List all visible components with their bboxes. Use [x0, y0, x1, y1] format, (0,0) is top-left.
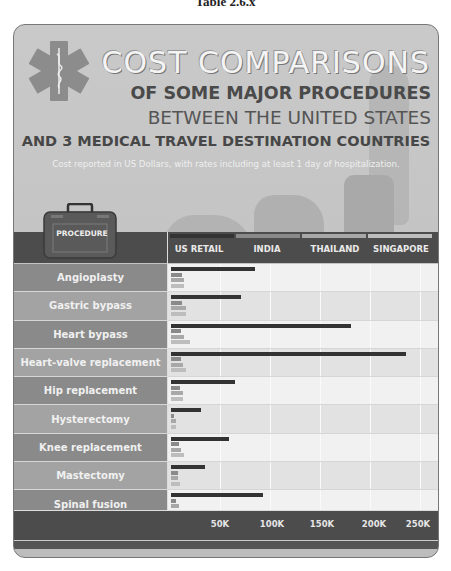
bar-plot-area: [168, 292, 438, 319]
bar-singapore: [171, 312, 186, 316]
table-row: Hip replacement: [14, 377, 438, 405]
bar-plot-area: [168, 405, 438, 432]
gridline: [370, 405, 371, 432]
gridline: [270, 292, 271, 319]
procedure-label: Gastric bypass: [14, 292, 167, 319]
gridline: [370, 292, 371, 319]
x-tick: 200K: [356, 519, 392, 529]
bar-singapore: [171, 397, 183, 401]
table-row: Angioplasty: [14, 264, 438, 292]
legend-swatch-us: [170, 234, 234, 238]
gridline: [420, 321, 421, 348]
procedure-label: Heart bypass: [14, 321, 167, 348]
bar-us-retail: [171, 267, 255, 271]
bar-thailand: [171, 306, 186, 310]
bar-us-retail: [171, 324, 351, 328]
gridline: [270, 377, 271, 404]
procedure-label: Hysterectomy: [14, 405, 167, 432]
gridline: [320, 462, 321, 489]
bar-india: [171, 357, 181, 361]
bar-thailand: [171, 335, 184, 339]
procedure-label: Knee replacement: [14, 434, 167, 461]
gridline: [220, 405, 221, 432]
gridline: [370, 377, 371, 404]
legend-swatch-singapore: [368, 234, 432, 238]
bar-plot-area: [168, 377, 438, 404]
gridline: [370, 264, 371, 291]
bar-us-retail: [171, 352, 406, 356]
legend-label-india: INDIA: [236, 244, 298, 254]
bar-india: [171, 301, 182, 305]
gridline: [320, 264, 321, 291]
gridline: [320, 377, 321, 404]
gridline: [320, 292, 321, 319]
bar-us-retail: [171, 295, 241, 299]
gridline: [320, 405, 321, 432]
bar-thailand: [171, 476, 178, 480]
table-row: Gastric bypass: [14, 292, 438, 320]
gridline: [420, 405, 421, 432]
gridline: [370, 462, 371, 489]
bar-india: [171, 386, 180, 390]
bar-thailand: [171, 419, 176, 423]
table-row: Hysterectomy: [14, 405, 438, 433]
bar-thailand: [171, 391, 183, 395]
column-divider: [167, 232, 168, 515]
gridline: [420, 264, 421, 291]
bar-us-retail: [171, 493, 263, 497]
bar-singapore: [171, 453, 184, 457]
gridline: [270, 462, 271, 489]
subtitle: Cost reported in US Dollars, with rates …: [20, 159, 432, 169]
gridline: [270, 264, 271, 291]
bar-plot-area: [168, 462, 438, 489]
x-tick: 250K: [400, 519, 436, 529]
gridline: [420, 349, 421, 376]
bar-us-retail: [171, 437, 229, 441]
table-row: Mastectomy: [14, 462, 438, 490]
title-line-1: COST COMPARISONS: [100, 45, 430, 80]
bar-india: [171, 471, 178, 475]
bar-singapore: [171, 482, 180, 486]
bar-us-retail: [171, 408, 201, 412]
gridline: [270, 405, 271, 432]
bar-india: [171, 499, 176, 503]
legend-swatch-india: [236, 234, 300, 238]
footer-band: [14, 540, 438, 549]
gridline: [370, 434, 371, 461]
gridline: [220, 462, 221, 489]
star-of-life-icon: [28, 40, 90, 102]
bar-plot-area: [168, 321, 438, 348]
bar-singapore: [171, 368, 186, 372]
bar-thailand: [171, 448, 181, 452]
legend-label-us: US RETAIL: [168, 244, 230, 254]
legend-label-singapore: SINGAPORE: [370, 244, 432, 254]
bar-thailand: [171, 278, 184, 282]
x-tick: 100K: [254, 519, 290, 529]
chart-rows: AngioplastyGastric bypassHeart bypassHea…: [14, 264, 438, 519]
table-row: Heart bypass: [14, 321, 438, 349]
bar-plot-area: [168, 264, 438, 291]
bar-us-retail: [171, 380, 235, 384]
legend-swatch-thailand: [302, 234, 366, 238]
gridline: [320, 434, 321, 461]
procedure-label: Mastectomy: [14, 462, 167, 489]
bar-us-retail: [171, 465, 205, 469]
bar-singapore: [171, 340, 190, 344]
table-row: Heart-valve replacement: [14, 349, 438, 377]
gridline: [270, 434, 271, 461]
table-caption: Table 2.6.x: [0, 0, 451, 10]
procedure-label: Angioplasty: [14, 264, 167, 291]
gridline: [420, 434, 421, 461]
procedure-label: Heart-valve replacement: [14, 349, 167, 376]
gridline: [370, 321, 371, 348]
gridline: [420, 462, 421, 489]
x-tick: 150K: [304, 519, 340, 529]
title-line-3: BETWEEN THE UNITED STATES: [74, 107, 431, 128]
bar-plot-area: [168, 349, 438, 376]
procedure-column-header: PROCEDURE: [52, 229, 112, 238]
bar-india: [171, 442, 179, 446]
title-line-4: AND 3 MEDICAL TRAVEL DESTINATION COUNTRI…: [20, 133, 432, 149]
legend-label-thailand: THAILAND: [304, 244, 366, 254]
table-row: Knee replacement: [14, 434, 438, 462]
bar-india: [171, 329, 181, 333]
